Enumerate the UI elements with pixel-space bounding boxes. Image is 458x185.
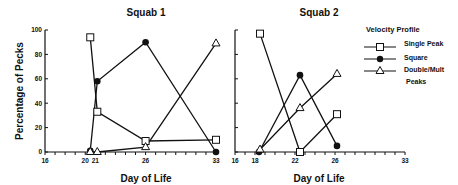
series-group bbox=[86, 34, 220, 155]
data-point bbox=[94, 108, 101, 115]
x-tick-label: 20 bbox=[82, 157, 90, 164]
y-tick-label: 40 bbox=[35, 100, 43, 107]
y-tick-label: 100 bbox=[31, 26, 42, 33]
panel-title: Squab 2 bbox=[300, 7, 339, 18]
x-axis-label: Day of Life bbox=[293, 173, 345, 184]
data-point bbox=[212, 39, 220, 46]
x-tick-label: 33 bbox=[212, 157, 220, 164]
filled-circle-icon bbox=[377, 56, 383, 62]
data-point bbox=[334, 111, 341, 118]
open-square-icon bbox=[377, 44, 384, 51]
y-tick-label: 0 bbox=[38, 148, 42, 155]
series-line bbox=[259, 75, 337, 152]
data-point bbox=[93, 148, 101, 155]
legend-title: Velocity Profile bbox=[366, 25, 420, 34]
y-axis-label: Percentage of Pecks bbox=[14, 42, 25, 140]
data-point bbox=[257, 30, 264, 37]
x-tick-label: 16 bbox=[231, 157, 239, 164]
data-point bbox=[297, 149, 304, 156]
panel-title: Squab 1 bbox=[127, 7, 166, 18]
series-line bbox=[90, 43, 216, 152]
legend-label-cont: Peaks bbox=[406, 78, 426, 85]
data-point bbox=[213, 136, 220, 143]
data-point bbox=[142, 39, 149, 46]
x-tick-label: 21 bbox=[92, 157, 100, 164]
x-tick-label: 22 bbox=[291, 157, 299, 164]
axes: 0204060801001620212633 bbox=[31, 26, 220, 164]
x-tick-label: 18 bbox=[251, 157, 259, 164]
data-point bbox=[297, 72, 304, 79]
legend: Velocity Profile Single Peak Square Doub… bbox=[364, 25, 445, 85]
legend-item-square: Square bbox=[364, 54, 428, 62]
series-group bbox=[256, 30, 341, 155]
legend-item-single-peak: Single Peak bbox=[364, 40, 443, 51]
data-point bbox=[94, 78, 101, 85]
legend-label: Single Peak bbox=[404, 40, 443, 48]
y-tick-label: 60 bbox=[35, 75, 43, 82]
series-line bbox=[260, 74, 337, 150]
legend-label: Square bbox=[404, 54, 428, 62]
y-tick-label: 80 bbox=[35, 51, 43, 58]
data-point bbox=[87, 34, 94, 41]
series-line bbox=[260, 34, 337, 152]
open-triangle-icon bbox=[376, 67, 384, 74]
panel-squab-1: Squab 1 Percentage of Pecks Day of Life … bbox=[14, 7, 220, 184]
data-point bbox=[334, 143, 341, 150]
x-tick-label: 26 bbox=[331, 157, 339, 164]
x-tick-label: 33 bbox=[401, 157, 409, 164]
legend-label: Double/Mult bbox=[404, 66, 445, 73]
x-axis-label: Day of Life bbox=[120, 173, 172, 184]
chart-canvas: Squab 1 Percentage of Pecks Day of Life … bbox=[0, 0, 458, 185]
data-point bbox=[213, 149, 220, 156]
data-point bbox=[333, 69, 341, 76]
legend-item-double-mult-peaks: Double/Mult Peaks bbox=[364, 66, 445, 85]
x-tick-label: 16 bbox=[41, 157, 49, 164]
x-tick-label: 26 bbox=[142, 157, 150, 164]
y-tick-label: 20 bbox=[35, 124, 43, 131]
